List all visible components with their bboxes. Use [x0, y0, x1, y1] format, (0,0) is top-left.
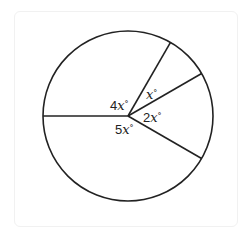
radius-lower-right: [128, 116, 202, 159]
angle-label-4x: 4x°: [110, 98, 129, 113]
radius-upper: [128, 42, 171, 116]
angle-label-2x: 2x°: [143, 110, 162, 125]
circle-diagram: 4x° x° 2x° 5x°: [0, 0, 251, 234]
radius-upper-right: [128, 74, 202, 117]
angle-label-5x: 5x°: [115, 122, 134, 137]
